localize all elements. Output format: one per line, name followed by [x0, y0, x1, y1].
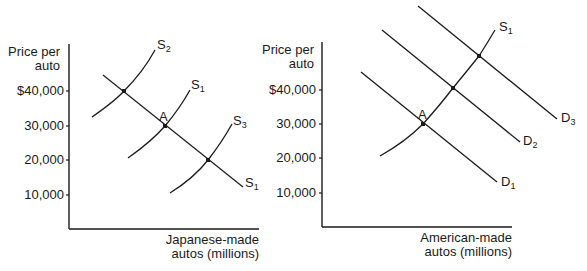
- equilibrium-point-d3: [477, 54, 481, 58]
- y-axis-label-line1: Price per: [258, 43, 314, 57]
- curve-label-s1: S1: [499, 20, 513, 34]
- tick-label-40000: $40,000: [256, 83, 316, 97]
- y-axis-label: Price per auto: [258, 43, 314, 71]
- supply-curve-s1: [380, 30, 495, 156]
- y-axis-label-line2: auto: [258, 57, 314, 71]
- tick-label-10000: 10,000: [256, 186, 316, 200]
- tick-label-30000: 30,000: [256, 117, 316, 131]
- curve-label-d3: D3: [561, 111, 575, 125]
- curve-label-d2: D2: [523, 134, 537, 148]
- curve-label-d1: D1: [501, 175, 515, 189]
- cutoff-caption-fragment: [384, 266, 587, 271]
- x-axis-label-line2: autos (millions): [402, 245, 512, 259]
- demand-line-d3: [418, 6, 557, 119]
- equilibrium-point-a: [421, 122, 425, 126]
- x-axis-label: American-made autos (millions): [402, 231, 512, 259]
- american-autos-chart: Price per auto $40,000 30,000 20,000 10,…: [0, 0, 587, 271]
- x-axis-label-line1: American-made: [402, 231, 512, 245]
- equilibrium-point-d2: [451, 86, 455, 90]
- point-label-a: A: [418, 108, 427, 122]
- demand-line-d1: [361, 72, 497, 182]
- tick-label-20000: 20,000: [256, 151, 316, 165]
